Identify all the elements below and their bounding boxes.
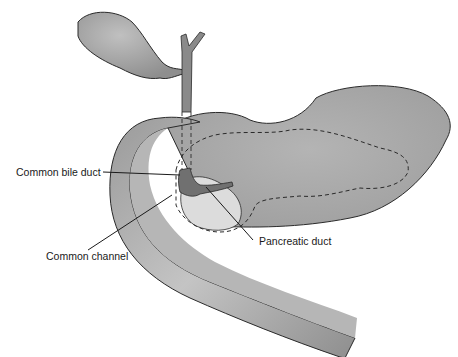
label-common-channel: Common channel	[46, 250, 128, 262]
gallbladder	[78, 12, 183, 78]
hepatic-duct	[181, 32, 205, 112]
label-common-bile-duct: Common bile duct	[16, 166, 101, 178]
anatomy-illustration	[0, 0, 458, 357]
label-pancreatic-duct: Pancreatic duct	[259, 235, 331, 247]
